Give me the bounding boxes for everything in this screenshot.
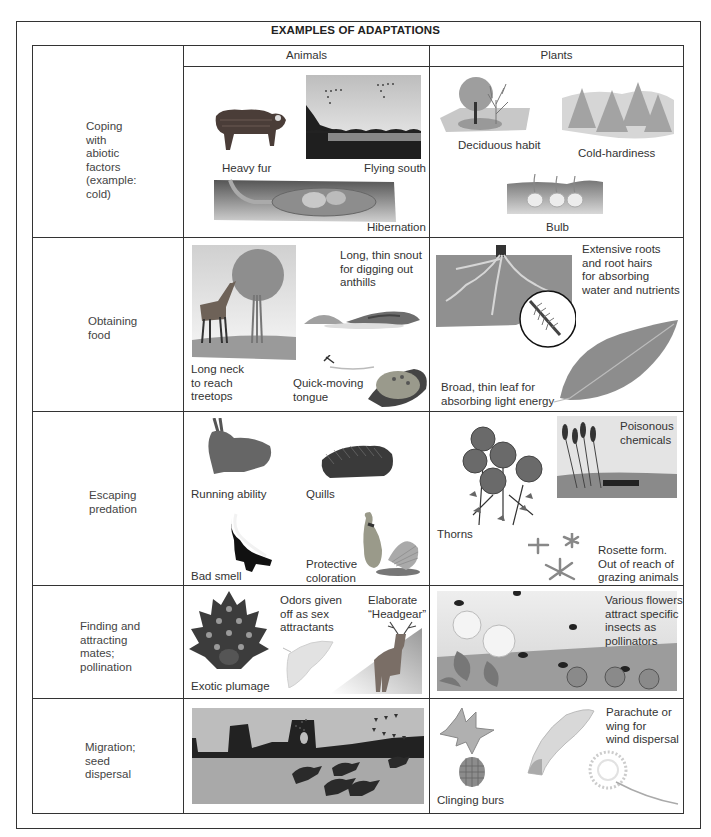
giraffe-illustration: [192, 245, 296, 360]
moth-illustration: [281, 638, 335, 688]
row-divider: [32, 698, 683, 699]
porcupine-illustration: [320, 440, 396, 482]
caption-running-ability: Running ability: [191, 488, 266, 502]
caption-heavy-fur: Heavy fur: [222, 162, 271, 176]
row-divider: [32, 585, 683, 586]
caption-protective-coloration: Protective coloration: [306, 558, 357, 585]
rabbit-illustration: [204, 418, 276, 478]
peacock-illustration: [189, 591, 269, 671]
header-divider: [183, 66, 683, 67]
caption-thorns: Thorns: [437, 528, 473, 542]
caption-exotic-plumage: Exotic plumage: [191, 680, 270, 694]
caption-quills: Quills: [306, 488, 335, 502]
column-header-animals: Animals: [184, 45, 429, 66]
row-label-finding-mates: Finding and attracting mates; pollinatio…: [80, 620, 140, 674]
caption-rosette-form: Rosette form. Out of reach of grazing an…: [598, 544, 679, 585]
caption-broad-leaf: Broad, thin leaf for absorbing light ene…: [441, 381, 554, 408]
burs-illustration: [436, 708, 500, 788]
column-header-plants: Plants: [430, 45, 683, 66]
caption-poisonous-chemicals: Poisonous chemicals: [620, 420, 674, 447]
deer-illustration: [330, 620, 424, 694]
row-label-coping: Coping with abiotic factors (example: co…: [86, 120, 137, 201]
caption-long-snout: Long, thin snout for digging out anthill…: [340, 249, 422, 290]
caption-extensive-roots: Extensive roots and root hairs for absor…: [582, 243, 680, 297]
horses-geese-migration-illustration: [192, 708, 424, 804]
bulbs-in-soil-illustration: [507, 174, 603, 218]
caption-cold-hardiness: Cold-hardiness: [578, 147, 655, 161]
row-label-obtaining-food: Obtaining food: [88, 315, 137, 342]
page-title: EXAMPLES OF ADAPTATIONS: [0, 24, 711, 36]
column-divider: [183, 45, 184, 813]
rosette-illustration: [528, 533, 588, 581]
caption-long-neck: Long neck to reach treetops: [191, 363, 244, 404]
geese-migrating-illustration: [306, 75, 421, 159]
row-divider: [32, 237, 683, 238]
caption-clinging-burs: Clinging burs: [437, 794, 504, 808]
caption-bulb: Bulb: [546, 221, 569, 235]
skunk-illustration: [226, 510, 278, 572]
row-label-migration: Migration; seed dispersal: [85, 741, 136, 782]
caption-various-flowers: Various flowers attract specific insects…: [605, 594, 683, 648]
roses-illustration: [453, 425, 549, 531]
row-label-escaping-predation: Escaping predation: [89, 489, 137, 516]
musk-ox-illustration: [212, 106, 288, 154]
grouse-illustration: [358, 510, 420, 576]
burrow-hibernation-illustration: [214, 178, 400, 222]
column-divider: [429, 45, 430, 813]
caption-hibernation: Hibernation: [367, 221, 426, 235]
caption-deciduous-habit: Deciduous habit: [458, 139, 540, 153]
deciduous-trees-illustration: [440, 74, 530, 134]
caption-quick-tongue: Quick-moving tongue: [293, 377, 363, 404]
row-divider: [32, 411, 683, 412]
caption-flying-south: Flying south: [364, 162, 426, 176]
anteater-illustration: [304, 302, 422, 330]
dandelion-seed-illustration: [586, 748, 686, 808]
leaf-illustration: [550, 320, 680, 404]
caption-elaborate-headgear: Elaborate “Headgear”: [368, 594, 426, 621]
caption-bad-smell: Bad smell: [191, 570, 242, 584]
conifer-trees-illustration: [562, 78, 674, 140]
caption-parachute-wing: Parachute or wing for wind dispersal: [606, 706, 679, 747]
